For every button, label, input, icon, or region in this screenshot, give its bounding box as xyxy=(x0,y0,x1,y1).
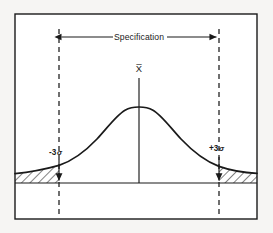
figure-panel xyxy=(15,14,257,219)
lower-limit-label: -3σ xyxy=(49,148,63,157)
process-capability-diagram: Specification X̅ -3σ +3σ xyxy=(0,0,273,233)
mean-label: X̅ xyxy=(136,63,143,74)
specification-label: Specification xyxy=(114,32,164,42)
upper-limit-label: +3σ xyxy=(209,144,225,153)
figure-container: Specification X̅ -3σ +3σ xyxy=(0,0,273,233)
